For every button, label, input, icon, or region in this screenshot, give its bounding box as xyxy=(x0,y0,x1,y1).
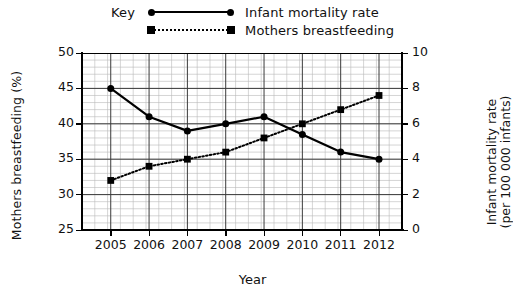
data-point-1-2005 xyxy=(107,85,114,92)
y-axis-right-tick-10: 10 xyxy=(412,44,436,59)
plot-border xyxy=(83,54,402,230)
axis-spine-bottom xyxy=(81,229,404,231)
y-axis-left-tick-50: 50 xyxy=(38,44,74,59)
data-point-2-2009 xyxy=(261,135,268,142)
legend-label-mothers-breastfeeding: Mothers breastfeeding xyxy=(237,23,394,38)
y-axis-right-tick-8: 8 xyxy=(412,79,436,94)
data-point-2-2007 xyxy=(184,156,191,163)
series-layer xyxy=(107,85,382,184)
legend-swatch-solid-line-circle xyxy=(145,5,237,19)
data-point-1-2008 xyxy=(222,120,229,127)
plot-area xyxy=(82,53,402,230)
data-point-1-2010 xyxy=(299,131,306,138)
plot-svg xyxy=(82,53,402,230)
data-point-2-2011 xyxy=(337,106,344,113)
y-axis-right-tick-2: 2 xyxy=(412,186,436,201)
legend-item-infant-mortality-rate: Infant mortality rate xyxy=(145,4,394,20)
y-axis-left-tick-30: 30 xyxy=(38,186,74,201)
legend-item-mothers-breastfeeding: Mothers breastfeeding xyxy=(145,22,394,38)
data-point-1-2011 xyxy=(337,149,344,156)
data-point-2-2008 xyxy=(222,149,229,156)
data-point-1-2009 xyxy=(261,113,268,120)
data-point-1-2007 xyxy=(184,127,191,134)
legend-label-infant-mortality-rate: Infant mortality rate xyxy=(237,5,379,20)
y-axis-left-tick-35: 35 xyxy=(38,150,74,165)
legend-swatch-dotted-line-square xyxy=(145,23,237,37)
data-point-2-2005 xyxy=(107,177,114,184)
grid-minor xyxy=(82,53,402,230)
data-point-2-2012 xyxy=(376,92,383,99)
data-point-2-2006 xyxy=(146,163,153,170)
data-point-1-2006 xyxy=(146,113,153,120)
legend-key-label: Key xyxy=(111,4,145,20)
data-point-2-2010 xyxy=(299,120,306,127)
axis-spine-left xyxy=(81,52,83,231)
chart-legend: Key Infant mortality rate xyxy=(0,4,505,38)
y-axis-right-title: Infant mortality rate (per 100 000 infan… xyxy=(485,62,513,262)
y-axis-right-tick-6: 6 xyxy=(412,115,436,130)
y-axis-right-title-line2: (per 100 000 infants) xyxy=(499,62,513,262)
x-axis-title: Year xyxy=(0,272,505,287)
y-axis-left-tick-45: 45 xyxy=(38,79,74,94)
data-point-1-2012 xyxy=(376,156,383,163)
y-axis-left-title: Mothers breastfeeding (%) xyxy=(9,56,24,256)
y-axis-left-tick-25: 25 xyxy=(38,221,74,236)
y-axis-right-tick-4: 4 xyxy=(412,150,436,165)
axis-spine-right xyxy=(401,52,403,231)
grid-major xyxy=(82,53,402,230)
y-axis-right-tick-0: 0 xyxy=(412,221,436,236)
x-axis-tick-2012: 2012 xyxy=(353,237,405,252)
y-axis-right-title-line1: Infant mortality rate xyxy=(485,62,499,262)
y-axis-left-tick-40: 40 xyxy=(38,115,74,130)
